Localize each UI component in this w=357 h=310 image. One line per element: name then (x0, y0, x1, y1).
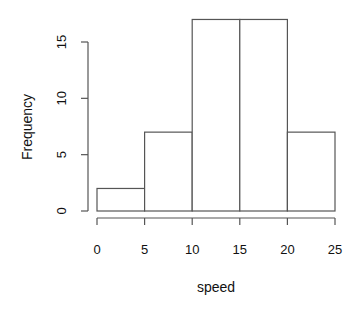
histogram-bar (145, 132, 193, 211)
y-tick-label: 10 (54, 91, 69, 105)
histogram-bars (97, 19, 335, 211)
histogram-bar (192, 19, 240, 211)
histogram-chart: 051015 0510152025 speed Frequency (0, 0, 357, 310)
x-axis: 0510152025 (93, 218, 342, 257)
histogram-bar (240, 19, 288, 211)
x-tick-label: 20 (280, 242, 294, 257)
histogram-bar (97, 188, 145, 211)
x-tick-label: 5 (141, 242, 148, 257)
y-tick-label: 0 (54, 207, 69, 214)
x-tick-label: 25 (328, 242, 342, 257)
y-axis: 051015 (54, 35, 88, 215)
x-tick-label: 15 (233, 242, 247, 257)
x-tick-label: 10 (185, 242, 199, 257)
x-axis-title: speed (197, 279, 235, 295)
y-axis-title: Frequency (19, 94, 35, 160)
x-tick-label: 0 (93, 242, 100, 257)
histogram-bar (287, 132, 335, 211)
y-tick-label: 15 (54, 35, 69, 49)
y-tick-label: 5 (54, 151, 69, 158)
